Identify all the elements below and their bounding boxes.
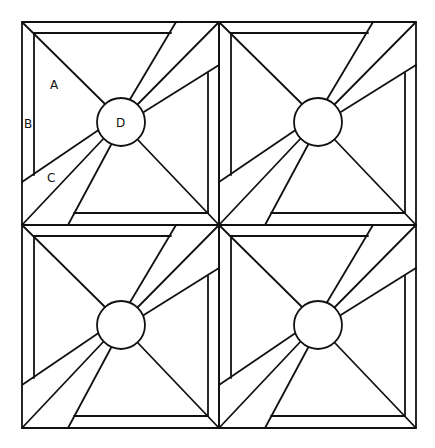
label-d: D [116, 116, 125, 130]
label-b: B [24, 117, 32, 131]
label-c: C [47, 171, 55, 185]
quilt-diagram: A B C D [0, 0, 435, 448]
block-top-right [219, 22, 416, 225]
block-bottom-left [22, 225, 219, 428]
block-bottom-right [219, 225, 416, 428]
label-a: A [50, 78, 59, 92]
